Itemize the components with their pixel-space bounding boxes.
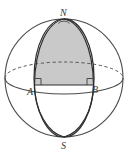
sphere-lune-figure: N S A B [0, 0, 130, 156]
sphere-diagram-canvas [0, 0, 130, 156]
label-point-b: B [92, 85, 98, 95]
label-north-pole: N [60, 8, 67, 18]
spherical-lune-shaded-region [35, 19, 94, 85]
label-point-a: A [27, 87, 33, 97]
label-south-pole: S [61, 141, 66, 151]
